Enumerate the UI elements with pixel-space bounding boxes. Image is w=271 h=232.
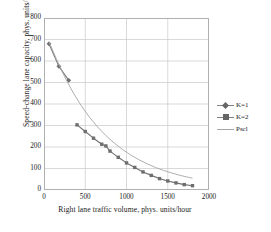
series-layer <box>47 41 195 187</box>
chart-figure: Speed-change lane capacity, phys. units/… <box>0 0 271 232</box>
legend-item-pscl[interactable]: Pscl <box>217 123 249 135</box>
y-tick-label: 0 <box>17 186 41 193</box>
data-point-marker <box>100 143 103 146</box>
y-tick-label: 700 <box>17 36 41 43</box>
data-point-marker <box>150 174 153 177</box>
y-tick-label: 100 <box>17 165 41 172</box>
data-point-marker <box>84 130 87 133</box>
data-point-marker <box>125 161 128 164</box>
data-point-marker <box>141 170 144 173</box>
series-k2 <box>75 123 194 187</box>
legend: K=1 K=2 Pscl <box>217 99 249 135</box>
data-point-marker <box>92 136 95 139</box>
y-tick-label: 200 <box>17 143 41 150</box>
legend-label-k1: K=1 <box>236 101 249 109</box>
x-tick-label: 1000 <box>107 194 147 201</box>
data-point-marker <box>133 166 136 169</box>
x-axis-title: Right lane traffic volume, phys. units/h… <box>36 205 214 214</box>
y-tick-label: 500 <box>17 79 41 86</box>
series-line <box>49 42 193 179</box>
series-k1 <box>47 41 72 82</box>
legend-label-pscl: Pscl <box>236 125 248 133</box>
x-tick-label: 2000 <box>189 194 229 201</box>
data-point-marker <box>183 183 186 186</box>
y-tick-label: 600 <box>17 57 41 64</box>
data-point-marker <box>158 177 161 180</box>
legend-label-k2: K=2 <box>236 113 249 121</box>
legend-marker-diamond-icon <box>217 101 234 110</box>
data-point-marker <box>166 179 169 182</box>
series-line <box>77 125 193 186</box>
data-point-marker <box>191 184 194 187</box>
plot-area: 0100200300400500600700800 05001000150020… <box>44 18 209 190</box>
y-tick-label: 800 <box>17 14 41 21</box>
legend-item-k2[interactable]: K=2 <box>217 111 249 123</box>
data-point-marker <box>75 123 78 126</box>
x-tick-label: 0 <box>24 194 64 201</box>
y-tick-label: 300 <box>17 122 41 129</box>
legend-item-k1[interactable]: K=1 <box>217 99 249 111</box>
plot-svg <box>44 18 209 190</box>
series-pscl <box>49 42 193 179</box>
data-point-marker <box>108 149 111 152</box>
legend-marker-square-icon <box>217 113 234 122</box>
x-tick-label: 1500 <box>148 194 188 201</box>
legend-marker-line-icon <box>217 125 234 134</box>
y-tick-label: 400 <box>17 100 41 107</box>
data-point-marker <box>174 181 177 184</box>
data-point-marker <box>117 156 120 159</box>
data-point-marker <box>104 144 107 147</box>
x-tick-label: 500 <box>65 194 105 201</box>
